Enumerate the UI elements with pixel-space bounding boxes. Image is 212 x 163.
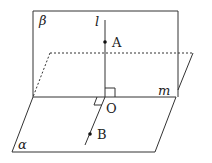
label-plane-beta: β: [39, 14, 47, 27]
geometry-diagram: β l A m O B α: [0, 0, 212, 163]
point-A-dot: [103, 40, 107, 44]
right-angle-mark-l: [105, 88, 115, 97]
label-point-O: O: [106, 102, 117, 115]
plane-alpha-left-dashed: [33, 53, 50, 97]
right-angle-mark-ob: [94, 97, 102, 105]
plane-alpha-right-upper: [178, 53, 193, 90]
label-point-A: A: [112, 36, 121, 49]
label-line-m: m: [158, 84, 170, 97]
label-point-B: B: [97, 128, 107, 141]
label-line-l: l: [95, 15, 99, 28]
plane-alpha-right-lower: [155, 97, 176, 152]
label-plane-alpha: α: [18, 138, 27, 151]
point-B-dot: [88, 132, 92, 136]
